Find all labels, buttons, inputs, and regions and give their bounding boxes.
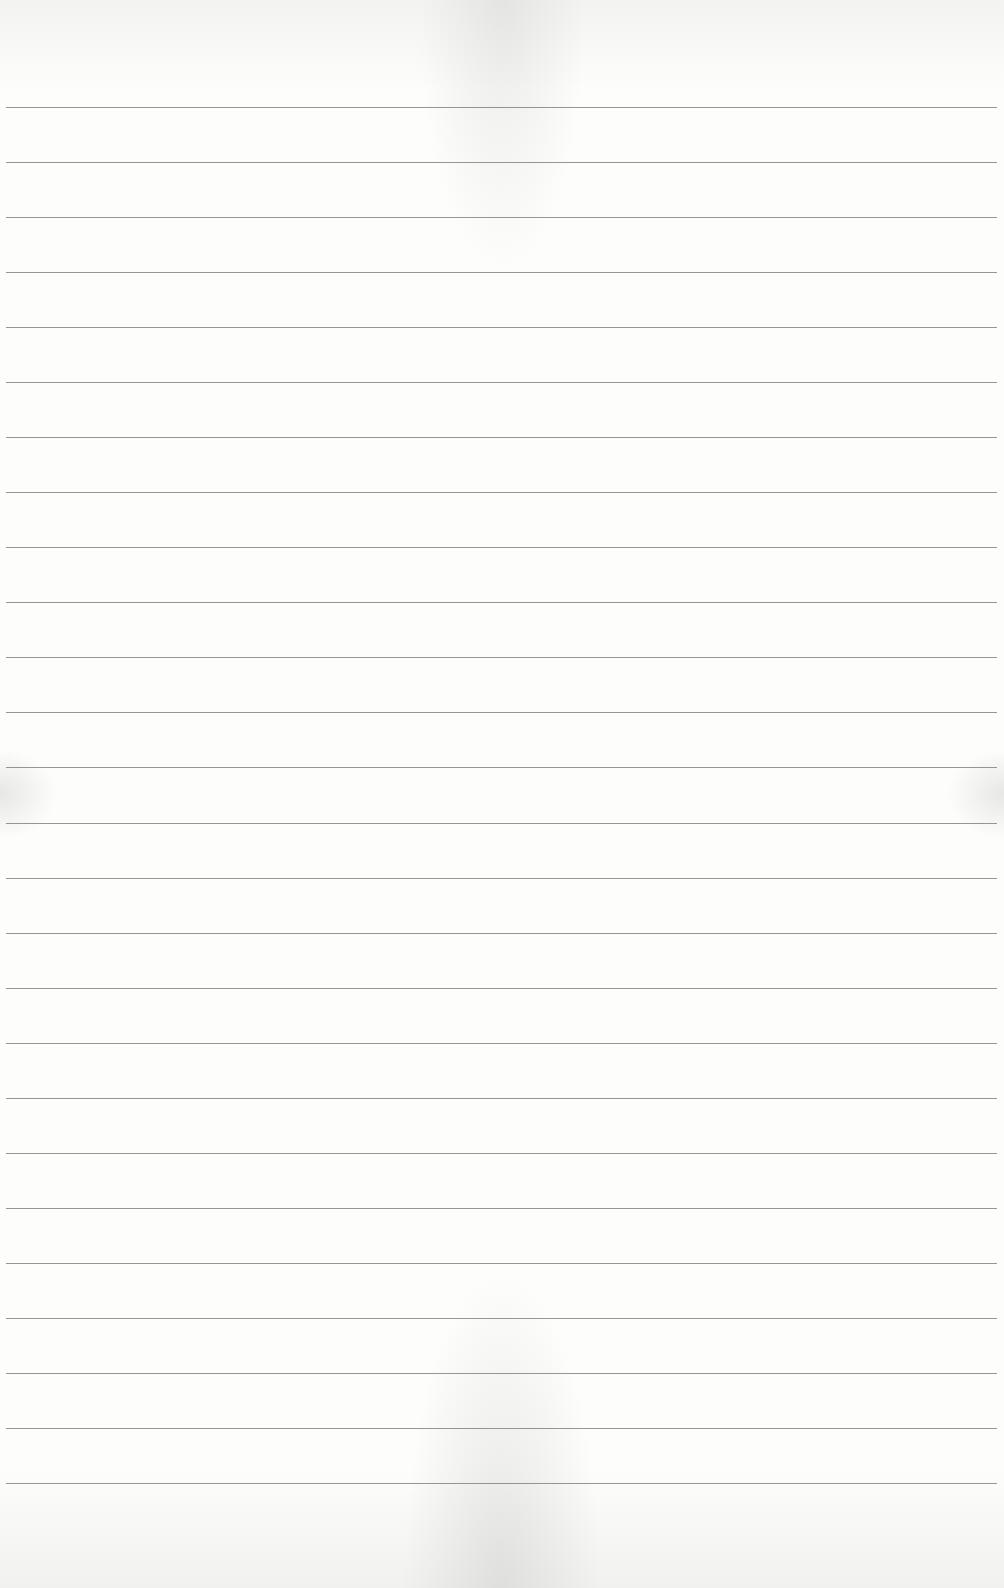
- ruled-line: [6, 933, 997, 934]
- ruled-line: [6, 1428, 997, 1429]
- ruled-line: [6, 492, 997, 493]
- ruled-line: [6, 1373, 997, 1374]
- ruled-line: [6, 327, 997, 328]
- ruled-line: [6, 712, 997, 713]
- ruled-line: [6, 107, 997, 108]
- ruled-line: [6, 602, 997, 603]
- notepad-sheet: [0, 0, 1004, 1588]
- ruled-line: [6, 1208, 997, 1209]
- ruled-line: [6, 878, 997, 879]
- ruled-line: [6, 657, 997, 658]
- ruled-line: [6, 217, 997, 218]
- ruled-line: [6, 1098, 997, 1099]
- ruled-line: [6, 437, 997, 438]
- ruled-line: [6, 1153, 997, 1154]
- ruled-line: [6, 823, 997, 824]
- ruled-line: [6, 1318, 997, 1319]
- ruled-line: [6, 988, 997, 989]
- ruled-line: [6, 547, 997, 548]
- ruled-lines: [0, 0, 1004, 1588]
- ruled-line: [6, 1483, 997, 1484]
- ruled-line: [6, 382, 997, 383]
- ruled-line: [6, 1263, 997, 1264]
- ruled-line: [6, 767, 997, 768]
- ruled-line: [6, 162, 997, 163]
- ruled-line: [6, 1043, 997, 1044]
- ruled-line: [6, 272, 997, 273]
